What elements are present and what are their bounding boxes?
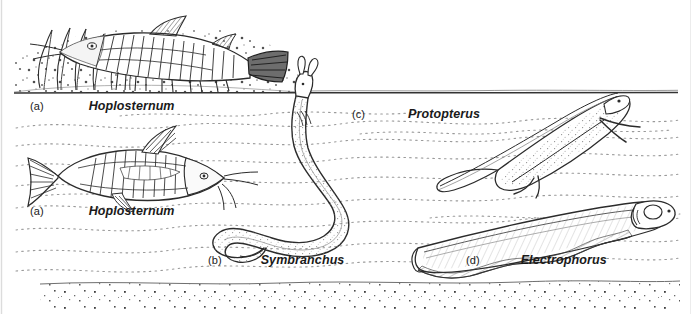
label-panel-d: (d) Electrophorus <box>466 251 607 267</box>
panel-genus-c: Protopterus <box>408 107 480 121</box>
fish-hoplosternum-bottom <box>28 126 258 212</box>
panel-genus-b: Symbranchus <box>261 253 345 267</box>
bottom-substrate <box>40 281 680 311</box>
label-panel-c: (c) Protopterus <box>352 105 480 121</box>
panel-genus-a-bottom: Hoplosternum <box>89 204 175 218</box>
panel-genus-a-top: Hoplosternum <box>89 99 175 113</box>
illustration-figure: (a) Hoplosternum (a) Hoplosternum (b) Sy… <box>0 0 692 314</box>
panel-tag-a-top: (a) <box>30 100 44 112</box>
panel-tag-d: (d) <box>466 254 480 266</box>
panel-tag-a-bottom: (a) <box>30 205 44 217</box>
panel-tag-c: (c) <box>352 108 365 120</box>
panel-genus-d: Electrophorus <box>521 253 607 267</box>
label-panel-a-bottom: (a) Hoplosternum <box>30 202 175 218</box>
label-panel-b: (b) Symbranchus <box>208 251 344 267</box>
label-panel-a-top: (a) Hoplosternum <box>30 97 175 113</box>
panel-tag-b: (b) <box>208 254 222 266</box>
